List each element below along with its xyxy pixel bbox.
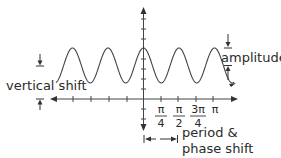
tick-label-3pi-4-num: 3π (191, 103, 205, 116)
sinusoid-diagram: amplitude vertical shift π 4 π 2 3π 4 π … (0, 0, 281, 158)
period-label-line1: period & (182, 125, 238, 140)
tick-label-pi-4-den: 4 (158, 117, 165, 130)
wave-end-arrow-icon (229, 83, 236, 87)
period-label-line2: phase shift (182, 141, 253, 156)
x-axis-left-arrow-icon (50, 96, 57, 102)
y-axis-up-arrow-icon (141, 7, 147, 14)
y-axis (141, 7, 147, 131)
period-marker (144, 135, 178, 143)
x-axis-right-arrow-icon (231, 96, 238, 102)
tick-label-pi-2-num: π (176, 103, 183, 116)
tick-label-pi: π (212, 103, 219, 116)
y-axis-down-arrow-icon (141, 124, 147, 131)
vertical-shift-label: vertical shift (6, 78, 87, 93)
amplitude-label: amplitude (221, 50, 281, 65)
tick-label-pi-4-num: π (158, 103, 165, 116)
